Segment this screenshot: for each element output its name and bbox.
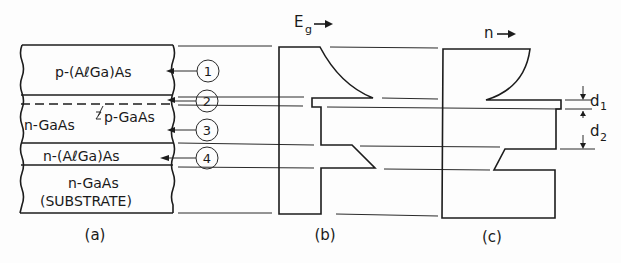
layer-label-substrate-sub: (SUBSTRATE) [40,193,132,209]
eg-axis-label: E [294,13,303,31]
svg-text:2: 2 [203,94,211,109]
pointer-arrow-icon [98,106,103,116]
interface-guide-lines [178,46,560,216]
layer-label-n-algaas: n-(AℓGa)As [43,148,120,164]
d2-subscript: 2 [600,131,607,144]
d2-label: d [590,122,600,140]
heterostructure-diagram: p-(AℓGa)As n-GaAs p-GaAs n-(AℓGa)As n-Ga… [0,0,621,263]
d1-subscript: 1 [600,100,607,113]
layer-label-substrate: n-GaAs [68,175,119,191]
marker-2: 2 [167,90,218,112]
caption-a: (a) [85,226,106,244]
panel-b-bandgap-profile [279,47,375,214]
svg-text:1: 1 [204,64,212,79]
layer-label-p-gaas: p-GaAs [104,109,155,125]
eg-axis-subscript: g [305,23,312,36]
layer-label-n-gaas: n-GaAs [24,117,75,133]
diagram-canvas: p-(AℓGa)As n-GaAs p-GaAs n-(AℓGa)As n-Ga… [0,0,621,263]
n-axis-label: n [484,24,494,42]
panel-c-refractive-index-profile [442,49,561,218]
d1-label: d [590,92,600,110]
caption-b: (b) [314,226,335,244]
svg-text:3: 3 [203,123,211,138]
svg-text:4: 4 [203,151,211,166]
layer-label-p-algaas: p-(AℓGa)As [55,64,132,80]
caption-c: (c) [482,228,502,246]
